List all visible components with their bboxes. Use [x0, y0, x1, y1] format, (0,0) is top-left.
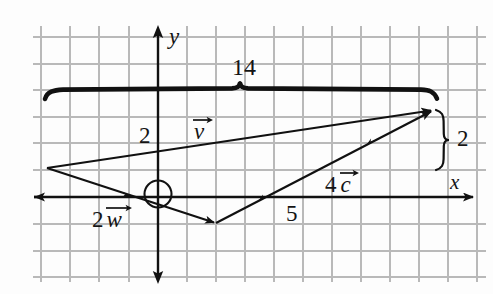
vector-c-symbol: c: [341, 171, 351, 196]
y-intercept-label-2: 2: [139, 124, 151, 147]
brace-top-label-14: 14: [232, 55, 256, 79]
vector-arrow-overbar-icon: [340, 168, 353, 175]
vector-4c-arrow: [216, 112, 431, 224]
vector-diagram-figure: y x 14 2 2 5 v 2w 4c: [0, 0, 493, 294]
x-intercept-label-5: 5: [286, 202, 298, 225]
vector-c-coefficient: 4: [325, 172, 337, 197]
coordinate-plane-graphic: [0, 0, 493, 294]
vector-2w-arrow: [47, 168, 214, 223]
axis-x-label: x: [450, 172, 459, 193]
vector-w-name: w: [107, 207, 122, 232]
vector-c-name: c: [341, 172, 351, 197]
grid-lines: [33, 26, 486, 282]
vector-v-label: v: [194, 118, 204, 143]
brace-right-label-2: 2: [457, 127, 469, 150]
vector-v-symbol: v: [194, 118, 204, 143]
vector-arrow-overbar-icon: [106, 203, 124, 210]
vector-arrow-overbar-icon: [193, 115, 206, 122]
axis-x: [34, 193, 473, 202]
axis-y-label: y: [169, 25, 179, 48]
right-brace: [436, 110, 448, 170]
vector-w-symbol: w: [107, 206, 122, 231]
vector-w-coefficient: 2: [92, 207, 104, 232]
top-brace: [45, 84, 437, 99]
vector-4c-label: 4c: [325, 171, 351, 196]
vector-v-name: v: [194, 119, 204, 144]
vector-2w-label: 2w: [92, 206, 122, 231]
vector-v-arrow: [47, 111, 431, 169]
